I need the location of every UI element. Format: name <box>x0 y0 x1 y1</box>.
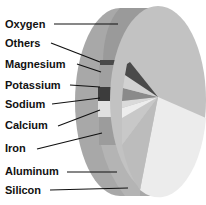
label-aluminum: Aluminum <box>5 165 59 177</box>
label-magnesium: Magnesium <box>5 58 66 70</box>
label-silicon: Silicon <box>5 184 41 196</box>
label-iron: Iron <box>5 142 26 154</box>
label-calcium: Calcium <box>5 119 48 131</box>
label-sodium: Sodium <box>5 98 45 110</box>
label-oxygen: Oxygen <box>5 18 45 30</box>
label-potassium: Potassium <box>5 79 61 91</box>
label-others: Others <box>5 37 40 49</box>
